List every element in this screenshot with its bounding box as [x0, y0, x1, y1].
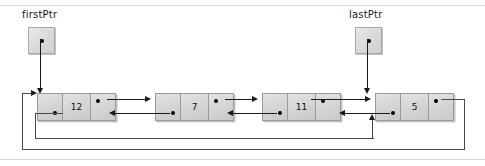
prev-pointer-dot [391, 111, 395, 115]
lastptr-label: lastPtr [349, 9, 383, 20]
prev-wrap-loop-stub [35, 113, 63, 114]
lastptr-arrowhead [364, 88, 370, 94]
node-value: 5 [412, 102, 418, 112]
next-pointer-dot [96, 99, 100, 103]
next-wrap-arrowhead [31, 90, 37, 96]
next-wrap-loop-left [22, 93, 23, 150]
node-value: 11 [296, 102, 307, 112]
list-node: 5 [375, 93, 454, 121]
firstptr-box [28, 27, 55, 54]
diagram-canvas: firstPtr lastPtr 12 7 [0, 0, 485, 166]
firstptr-wire-vertical [40, 39, 41, 92]
node-value: 12 [71, 102, 82, 112]
lastptr-box [355, 27, 382, 54]
prev-wrap-arrowhead [369, 114, 375, 120]
next-wrap-loop-right [464, 99, 465, 150]
next-link-arrowhead [365, 96, 371, 102]
prev-wrap-loop-riser [372, 119, 373, 138]
next-link-arrowhead [145, 96, 151, 102]
next-wrap-loop-top [441, 99, 465, 100]
next-link-arrowhead [252, 96, 258, 102]
node-prev-cell [376, 94, 401, 120]
next-link-wire [225, 99, 253, 100]
node-next-cell [429, 94, 453, 120]
next-link-wire [311, 99, 366, 100]
firstptr-label: firstPtr [22, 9, 57, 20]
lastptr-wire-vertical [367, 39, 368, 92]
node-data-cell: 5 [401, 94, 429, 120]
bottom-divider [0, 159, 485, 160]
top-divider [0, 5, 485, 6]
prev-wrap-loop-wire [35, 113, 374, 139]
next-wrap-loop-bottom [22, 149, 465, 150]
next-link-wire [107, 99, 146, 100]
next-pointer-dot [214, 99, 218, 103]
node-value: 7 [192, 102, 198, 112]
next-pointer-dot [434, 99, 438, 103]
